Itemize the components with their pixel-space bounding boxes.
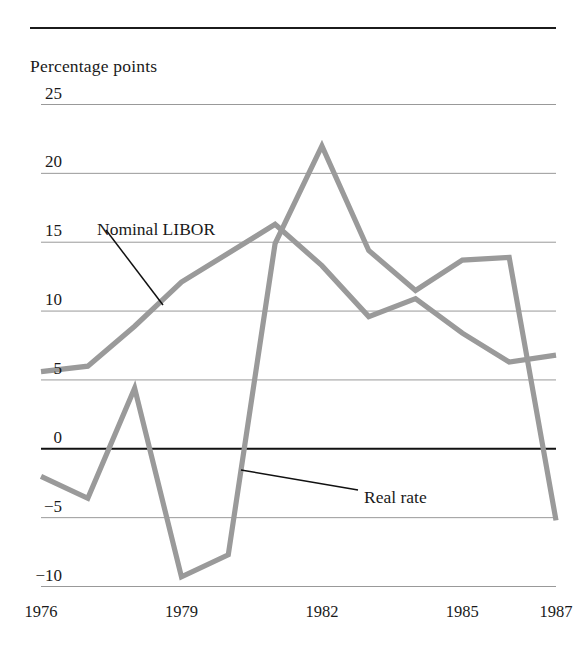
- y-tick-label-15: 15: [0, 221, 62, 241]
- x-tick-label-1985: 1985: [427, 602, 497, 622]
- x-tick-label-1982: 1982: [287, 602, 357, 622]
- leader-line-nominal-libor: [106, 230, 163, 305]
- annotation-label-nominal-libor: Nominal LIBOR: [97, 219, 215, 240]
- series-line-real-rate: [41, 146, 556, 577]
- y-tick-label-25: 25: [0, 84, 62, 104]
- y-tick-label--5: −5: [0, 497, 62, 517]
- y-tick-label-5: 5: [0, 359, 62, 379]
- x-tick-label-1987: 1987: [521, 602, 584, 622]
- leader-line-real-rate: [241, 470, 358, 490]
- y-tick-label--10: −10: [0, 566, 62, 586]
- y-tick-label-10: 10: [0, 290, 62, 310]
- line-chart-plot: [0, 0, 584, 652]
- x-tick-label-1976: 1976: [6, 602, 76, 622]
- annotation-label-real-rate: Real rate: [364, 487, 427, 508]
- y-tick-label-0: 0: [0, 428, 62, 448]
- figure-container: Percentage points 2520151050−5−10 197619…: [0, 0, 584, 652]
- y-tick-label-20: 20: [0, 152, 62, 172]
- x-tick-label-1979: 1979: [146, 602, 216, 622]
